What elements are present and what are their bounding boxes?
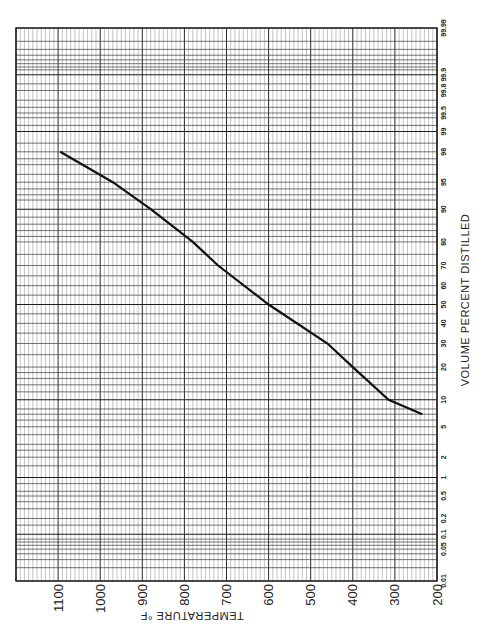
percent-tick-label: 0.2 (440, 514, 447, 524)
percent-tick-label: 70 (440, 262, 447, 270)
temperature-tick-label: 800 (177, 584, 192, 606)
percent-tick-label: 0.5 (440, 491, 447, 501)
percent-tick-label: 0.1 (440, 529, 447, 539)
y-axis-title: TEMPERATURE °F (140, 610, 243, 622)
percent-tick-label: 95 (440, 178, 447, 186)
percent-tick-label: 99.5 (440, 106, 447, 120)
temperature-tick-label: 1000 (93, 584, 108, 613)
percent-tick-label: 98 (440, 148, 447, 156)
percent-tick-label: 10 (440, 396, 447, 404)
percent-tick-label: 99.99 (440, 19, 447, 37)
distillation-curve (60, 152, 422, 414)
percent-tick-labels: 0.010.050.10.20.512510203040506070809095… (440, 19, 447, 588)
temperature-tick-labels: 20030040050060070080090010001100 (51, 584, 445, 613)
percent-tick-label: 2 (440, 455, 447, 459)
percent-tick-label: 60 (440, 282, 447, 290)
percent-tick-label: 80 (440, 238, 447, 246)
temperature-tick-label: 1100 (51, 584, 66, 612)
percent-tick-label: 1 (440, 475, 447, 479)
temperature-tick-label: 900 (135, 584, 150, 606)
temperature-tick-label: 600 (261, 584, 276, 606)
temperature-tick-label: 700 (219, 584, 234, 606)
percent-tick-label: 90 (440, 205, 447, 213)
percent-tick-label: 50 (440, 301, 447, 309)
percent-tick-label: 99.9 (440, 68, 447, 82)
probability-chart: 0.010.050.10.20.512510203040506070809095… (0, 0, 478, 627)
percent-tick-label: 99 (440, 128, 447, 136)
temperature-tick-label: 400 (345, 584, 360, 606)
x-axis-title: VOLUME PERCENT DISTILLED (459, 214, 471, 387)
percent-tick-label: 20 (440, 363, 447, 371)
temperature-tick-label: 300 (387, 584, 402, 606)
percent-tick-label: 30 (440, 339, 447, 347)
percent-tick-label: 99.8 (440, 84, 447, 98)
percent-tick-label: 5 (440, 425, 447, 429)
temperature-tick-label: 200 (430, 584, 445, 606)
percent-tick-label: 0.05 (440, 542, 447, 556)
temperature-tick-label: 500 (303, 584, 318, 606)
percent-tick-label: 40 (440, 319, 447, 327)
